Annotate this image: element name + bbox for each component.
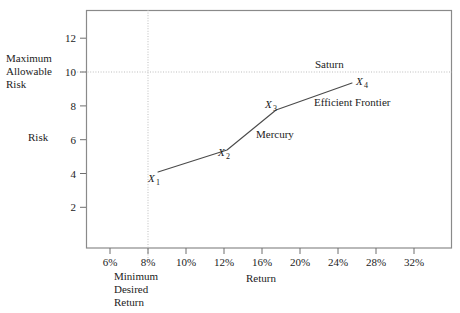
x-tick-label: 8%	[141, 256, 156, 268]
x-tick-label: 12%	[214, 256, 234, 268]
y-tick-label: 8	[71, 100, 77, 112]
data-point-label-x2: X 2	[217, 146, 230, 161]
data-point-subscript: 2	[226, 152, 230, 161]
data-point-letter: X	[147, 172, 156, 184]
data-point-subscript: 3	[273, 104, 277, 113]
data-point-subscript: 1	[156, 178, 160, 187]
annotation-efficient-frontier: Efficient Frontier	[314, 96, 390, 109]
y-tick-label: 4	[71, 168, 77, 180]
y-tick-label: 12	[65, 32, 76, 44]
x-tick-label: 20%	[290, 256, 310, 268]
x-tick-label: 10%	[176, 256, 196, 268]
annotation-mercury: Mercury	[256, 128, 294, 141]
data-point-label-x3: X 3	[264, 98, 277, 113]
data-point-label-x4: X 4	[355, 75, 368, 90]
x-axis-title: Return	[246, 272, 276, 285]
x-tick-label: 32%	[404, 256, 424, 268]
x-axis-ticks	[110, 248, 414, 254]
x-tick-label: 24%	[328, 256, 348, 268]
data-point-label-x1: X 1	[147, 172, 160, 187]
x-tick-label: 16%	[252, 256, 272, 268]
data-point-letter: X	[217, 146, 226, 158]
minimum-desired-return-label: Minimum Desired Return	[114, 270, 200, 309]
efficient-frontier-chart: 2 4 6 8 10 12 6% 8% 10% 12% 16% 20% 24% …	[0, 0, 460, 313]
x-tick-label: 28%	[366, 256, 386, 268]
y-axis-title: Risk	[28, 131, 48, 144]
x-tick-labels: 6% 8% 10% 12% 16% 20% 24% 28% 32%	[103, 256, 424, 268]
x-tick-label: 6%	[103, 256, 118, 268]
data-point-letter: X	[355, 75, 364, 87]
data-point-subscript: 4	[364, 81, 368, 90]
data-point-letter: X	[264, 98, 273, 110]
y-tick-label: 2	[71, 201, 77, 213]
y-tick-label: 6	[71, 134, 77, 146]
plot-canvas: 2 4 6 8 10 12 6% 8% 10% 12% 16% 20% 24% …	[0, 0, 460, 313]
maximum-allowable-risk-label: Maximum Allowable Risk	[6, 52, 82, 91]
annotation-saturn: Saturn	[315, 58, 344, 71]
